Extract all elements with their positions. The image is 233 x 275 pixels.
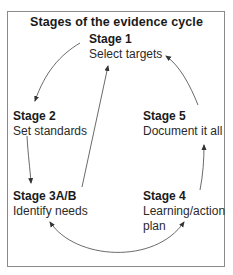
arrow-stage4-to-stage5 bbox=[200, 145, 204, 190]
arrow-stage3-stage4-bidirectional bbox=[50, 222, 184, 252]
arrow-stage5-to-stage1 bbox=[166, 56, 198, 105]
cycle-arrows bbox=[0, 0, 233, 275]
arrow-stage1-to-stage2 bbox=[35, 43, 80, 101]
arrow-stage3-to-stage1 bbox=[82, 66, 108, 187]
arrow-stage2-to-stage3 bbox=[27, 136, 31, 183]
